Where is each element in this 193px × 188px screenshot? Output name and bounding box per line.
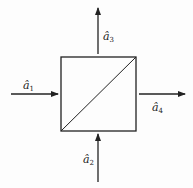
beam-splitter-diagram: â1 â2 â3 â4: [0, 0, 193, 188]
beam-splitter-box: [61, 57, 136, 131]
splitter-diagonal: [61, 57, 136, 131]
label-a4: â4: [152, 101, 164, 115]
label-a2: â2: [83, 153, 94, 167]
label-a1: â1: [23, 79, 34, 93]
label-a3: â3: [103, 30, 114, 44]
diagram-svg: â1 â2 â3 â4: [0, 0, 193, 188]
